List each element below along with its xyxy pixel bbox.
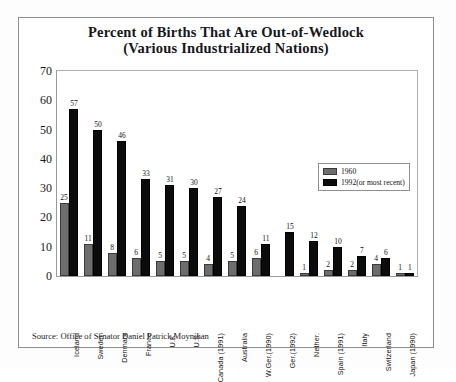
bar-value-label-1992: 11 (262, 234, 269, 243)
bar-value-label-1992: 10 (334, 237, 342, 246)
source-note: Source: Office of Senator Daniel Patrick… (32, 331, 209, 341)
bar-group: 531 (153, 71, 177, 276)
bar-value-label-1992: 7 (360, 246, 364, 255)
bar-group: 633 (129, 71, 153, 276)
y-axis-tick-20: 20 (22, 210, 52, 225)
bar-value-label-1992: 24 (238, 196, 246, 205)
bar-value-label-1960: 5 (182, 251, 186, 260)
bar-1960 (132, 258, 141, 276)
bar-1992 (141, 179, 150, 276)
bar-group: 427 (201, 71, 225, 276)
bar-value-label-1992: 15 (286, 222, 294, 231)
bar-1960 (156, 261, 165, 276)
bar-1992 (381, 258, 390, 276)
bar-1992 (165, 185, 174, 276)
bar-value-label-1960: 5 (230, 251, 234, 260)
bar-value-label-1992: 31 (166, 175, 174, 184)
y-axis-tick-40: 40 (22, 151, 52, 166)
y-axis-tick-50: 50 (22, 122, 52, 137)
bar-value-label-1992: 50 (94, 120, 102, 129)
bar-value-label-1960: 1 (398, 263, 402, 272)
bar-1960 (180, 261, 189, 276)
bar-1960 (300, 273, 309, 276)
bar-group: 530 (177, 71, 201, 276)
bar-1992 (333, 247, 342, 276)
bar-value-label-1992: 6 (384, 248, 388, 257)
bar-value-label-1992: 27 (214, 187, 222, 196)
bar-group: 524 (225, 71, 249, 276)
x-axis-tick-label: W.Ger.(1990) (264, 333, 273, 377)
chart-legend: 1960 1992(or most recent) (318, 163, 410, 191)
bar-1992 (357, 256, 366, 277)
y-axis-tick-10: 10 (22, 239, 52, 254)
bar-group: 846 (105, 71, 129, 276)
bar-1992 (189, 188, 198, 276)
bar-1992 (93, 130, 102, 276)
legend-swatch-1960 (323, 168, 337, 175)
legend-label-1960: 1960 (341, 167, 356, 176)
bar-1960 (60, 203, 69, 276)
bar-1960 (84, 244, 93, 276)
bar-1960 (324, 270, 333, 276)
x-axis-tick-label: Canada (1991) (216, 333, 225, 382)
bar-value-label-1992: 46 (118, 131, 126, 140)
bar-1992 (117, 141, 126, 276)
bar-group: 1150 (81, 71, 105, 276)
x-axis-tick-label: Switzerland (384, 333, 393, 371)
chart-title-line-2: (Various Industrialized Nations) (18, 40, 434, 56)
x-axis-tick-label: Ger.(1992) (288, 333, 297, 368)
chart-title: Percent of Births That Are Out-of-Wedloc… (18, 24, 434, 56)
bar-value-label-1960: 1 (302, 263, 306, 272)
bar-value-label-1960: 8 (110, 243, 114, 252)
bar-1992 (261, 244, 270, 276)
bar-1960 (228, 261, 237, 276)
bar-1960 (252, 258, 261, 276)
bar-1960 (348, 270, 357, 276)
bar-1960 (396, 273, 405, 276)
x-axis-tick-label: Australia (240, 333, 249, 362)
y-axis-tick-0: 0 (22, 269, 52, 284)
bar-value-label-1960: 25 (60, 193, 68, 202)
chart-title-line-1: Percent of Births That Are Out-of-Wedloc… (18, 24, 434, 40)
bar-1960 (204, 264, 213, 276)
x-axis-tick-label: Nether. (312, 333, 321, 357)
bar-1992 (285, 232, 294, 276)
bar-1992 (309, 241, 318, 276)
bar-value-label-1960: 5 (158, 251, 162, 260)
y-axis-tick-70: 70 (22, 64, 52, 79)
legend-swatch-1992 (323, 179, 337, 186)
bar-1960 (108, 253, 117, 276)
x-axis: IcelandSwedenDenmarkFranceU.K.U.S.Canada… (57, 279, 417, 335)
bar-group: 15 (273, 71, 297, 276)
bar-value-label-1992: 12 (310, 231, 318, 240)
bar-1960 (372, 264, 381, 276)
x-axis-tick-label: Spain (1991) (336, 333, 345, 375)
bar-value-label-1960: 4 (206, 254, 210, 263)
bar-value-label-1960: 4 (374, 254, 378, 263)
bar-1992 (237, 206, 246, 276)
bar-value-label-1960: 11 (84, 234, 91, 243)
bar-value-label-1992: 30 (190, 178, 198, 187)
y-axis-tick-30: 30 (22, 181, 52, 196)
legend-label-1992: 1992(or most recent) (341, 178, 405, 187)
legend-item-1960: 1960 (323, 167, 405, 176)
bar-1992 (69, 109, 78, 276)
bar-group: 611 (249, 71, 273, 276)
bar-group: 2557 (57, 71, 81, 276)
bar-value-label-1960: 6 (254, 248, 258, 257)
bar-value-label-1992: 1 (408, 263, 412, 272)
legend-item-1992: 1992(or most recent) (323, 178, 405, 187)
bar-1992 (405, 273, 414, 276)
x-axis-tick-label: Italy (360, 333, 369, 347)
x-axis-tick-label: Japan (1990) (408, 333, 417, 377)
bar-value-label-1960: 2 (350, 260, 354, 269)
bar-value-label-1960: 2 (326, 260, 330, 269)
y-axis-tick-60: 60 (22, 93, 52, 108)
bar-1992 (213, 197, 222, 276)
y-axis: 010203040506070 (22, 62, 52, 285)
bar-value-label-1960: 6 (134, 248, 138, 257)
bar-value-label-1992: 57 (70, 99, 78, 108)
bar-value-label-1992: 33 (142, 169, 150, 178)
